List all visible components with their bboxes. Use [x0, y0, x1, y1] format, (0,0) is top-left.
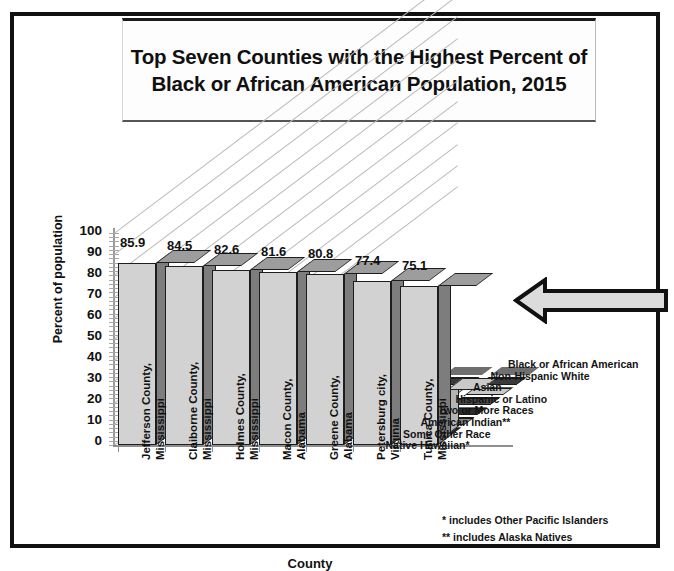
legend-item: Black or African American [508, 358, 639, 370]
footnote-double-star: ** includes Alaska Natives [442, 531, 572, 543]
data-label: 77.4 [355, 253, 380, 268]
data-label: 75.1 [402, 258, 427, 273]
x-category-label: Jefferson County, Mississippi [140, 342, 167, 460]
x-category-label: Greene County, Alabama [328, 342, 355, 460]
legend-item: Native Hawaiian* [386, 439, 470, 451]
data-label: 81.6 [261, 244, 286, 259]
data-label: 80.8 [308, 246, 333, 261]
x-category-label: Macon County, Alabama [281, 342, 308, 460]
plot-area: Percent of population 100 90 80 70 60 50… [14, 122, 656, 548]
legend-item: Hispanic or Latino [456, 393, 548, 405]
legend-item: Two or More Races [438, 404, 534, 416]
x-axis-title: County [250, 556, 370, 571]
left-arrow-icon [513, 277, 669, 324]
x-category-label: Holmes County, Mississippi [234, 342, 261, 460]
left-arrow-annotation [513, 277, 669, 324]
legend-item: American Indian** [421, 416, 511, 428]
footnote-single-star: * includes Other Pacific Islanders [442, 514, 608, 526]
x-tick-mark [118, 445, 119, 452]
chart-frame: Top Seven Counties with the Highest Perc… [10, 12, 660, 548]
legend-item: Some Other Race [403, 428, 491, 440]
legend-item: Non-Hispanic White [491, 370, 590, 382]
data-label: 85.9 [120, 235, 145, 250]
data-label: 82.6 [214, 242, 239, 257]
data-label: 84.5 [167, 238, 192, 253]
x-category-label: Claiborne County, Mississippi [187, 342, 214, 460]
legend-item: Asian [473, 381, 502, 393]
